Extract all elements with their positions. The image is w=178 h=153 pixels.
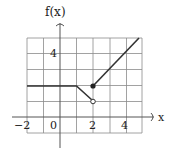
y-tick-label-4: 4 xyxy=(50,47,57,60)
x-axis-label: x xyxy=(158,111,165,124)
function-graph: f(x) x −2 0 2 4 4 xyxy=(0,0,178,153)
filled-circle-marker xyxy=(90,83,95,88)
tick-label-4: 4 xyxy=(121,119,128,132)
curve-piece-right xyxy=(93,38,139,86)
y-axis-label: f(x) xyxy=(45,5,66,19)
open-circle-marker xyxy=(91,99,96,104)
tick-label-2: 2 xyxy=(89,119,96,132)
tick-label-0: 0 xyxy=(50,119,57,132)
tick-label-neg2: −2 xyxy=(14,119,30,132)
